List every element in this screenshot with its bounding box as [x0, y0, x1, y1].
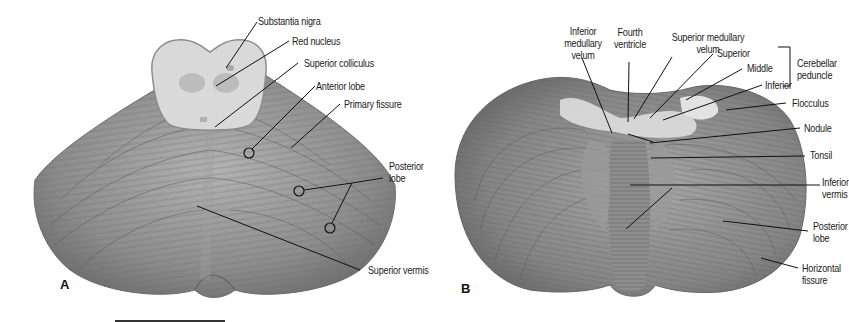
panel-letter-a: A — [60, 277, 69, 292]
label-primary-fissure: Primary fissure — [344, 98, 402, 110]
label-red-nucleus: Red nucleus — [292, 35, 340, 47]
label-cp-line2: peduncle — [797, 69, 837, 81]
label-hf-line2: fissure — [802, 274, 841, 286]
label-fv-line2: ventricle — [609, 38, 652, 50]
label-cp-line1: Cerebellar — [797, 57, 837, 69]
label-posterior-lobe-a-line2: lobe — [389, 172, 424, 184]
label-superior-vermis: Superior vermis — [368, 264, 429, 276]
label-fourth-ventricle: Fourth ventricle — [609, 26, 652, 50]
label-nodule: Nodule — [804, 122, 832, 134]
label-iv-line2: vermis — [822, 188, 849, 200]
label-cerebellar-peduncle: Cerebellar peduncle — [797, 57, 837, 81]
label-smv-line1: Superior medullary — [665, 31, 751, 43]
panel-letter-b: B — [461, 281, 470, 296]
label-flocculus: Flocculus — [792, 97, 829, 109]
label-superior-colliculus: Superior colliculus — [304, 57, 374, 69]
label-iv-line1: Inferior — [822, 176, 849, 188]
label-anterior-lobe: Anterior lobe — [316, 80, 365, 92]
label-peduncle-inferior: Inferior — [765, 79, 792, 91]
label-horizontal-fissure: Horizontal fissure — [802, 262, 841, 286]
label-posterior-lobe-b: Posterior lobe — [813, 220, 848, 244]
label-posterior-lobe-a-line1: Posterior — [389, 160, 424, 172]
label-tonsil: Tonsil — [810, 149, 832, 161]
label-fv-line1: Fourth — [609, 26, 652, 38]
label-posterior-lobe-b-line1: Posterior — [813, 220, 848, 232]
label-posterior-lobe-a: Posterior lobe — [389, 160, 424, 184]
label-hf-line1: Horizontal — [802, 262, 841, 274]
label-inferior-vermis: Inferior vermis — [822, 176, 849, 200]
label-substantia-nigra: Substantia nigra — [258, 15, 321, 27]
label-posterior-lobe-b-line2: lobe — [813, 232, 848, 244]
label-peduncle-middle: Middle — [747, 62, 773, 74]
label-inferior-medullary-velum: Inferior medullary velum — [559, 25, 607, 61]
label-imv-line2: medullary — [559, 37, 607, 49]
label-peduncle-superior: Superior — [717, 47, 750, 59]
label-imv-line3: velum — [559, 49, 607, 61]
label-imv-line1: Inferior — [559, 25, 607, 37]
